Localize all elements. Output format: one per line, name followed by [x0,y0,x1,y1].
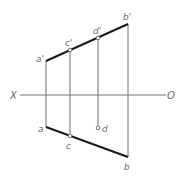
projection-diagram: X O a' c' d' b' a c d b [0,0,184,177]
line-a-b [46,127,128,157]
point-c-prime-marker [68,48,72,52]
label-a-prime: a' [36,54,44,64]
label-b: b [124,162,130,172]
label-d-prime: d' [93,26,101,36]
label-c: c [66,141,71,151]
line-a-prime-b-prime [46,24,128,61]
label-b-prime: b' [123,12,131,22]
point-c-marker [68,134,72,138]
point-d-prime-marker [96,36,100,40]
label-a: a [38,124,44,134]
label-d: d [102,124,108,134]
point-d-marker [96,126,100,130]
axis-label-o: O [167,90,175,101]
label-c-prime: c' [65,38,72,48]
axis-label-x: X [9,90,18,101]
